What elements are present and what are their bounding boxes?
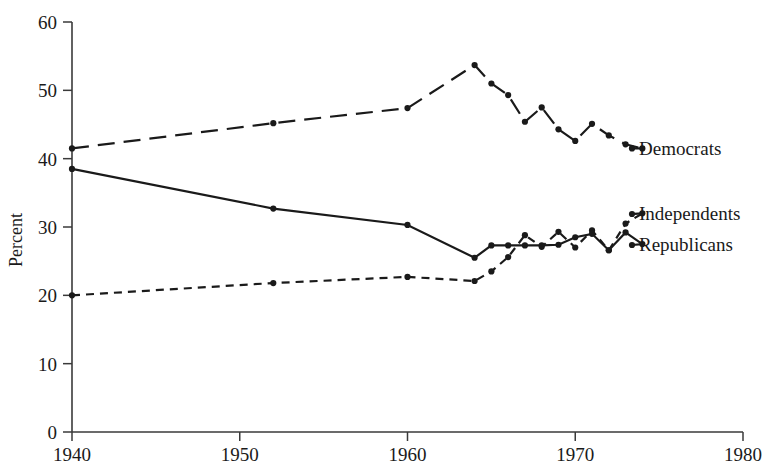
series-leader-dot-republicans bbox=[629, 242, 635, 248]
data-point-republicans-1965 bbox=[488, 242, 494, 248]
y-tick-label-60: 60 bbox=[38, 12, 57, 33]
data-point-democrats-1970 bbox=[572, 138, 578, 144]
data-point-democrats-1973 bbox=[622, 141, 628, 147]
y-axis-ticks bbox=[63, 22, 72, 432]
series-line-democrats bbox=[72, 65, 642, 148]
data-point-republicans-1960 bbox=[404, 222, 410, 228]
y-tick-label-40: 40 bbox=[38, 149, 57, 170]
y-axis-title: Percent bbox=[6, 213, 26, 267]
chart-container: 0102030405060 19401950196019701980 Perce… bbox=[0, 0, 778, 470]
y-tick-label-50: 50 bbox=[38, 80, 57, 101]
data-point-democrats-1968 bbox=[539, 104, 545, 110]
x-tick-label-1940: 1940 bbox=[53, 444, 91, 465]
data-point-republicans-1940 bbox=[69, 166, 75, 172]
series-layer bbox=[72, 65, 642, 295]
y-axis-tick-labels: 0102030405060 bbox=[38, 12, 57, 443]
x-tick-label-1970: 1970 bbox=[556, 444, 594, 465]
data-point-independents-1970 bbox=[572, 244, 578, 250]
series-leader-dot-independents bbox=[629, 211, 635, 217]
x-tick-label-1960: 1960 bbox=[389, 444, 427, 465]
data-point-democrats-1960 bbox=[404, 105, 410, 111]
series-label-democrats: Democrats bbox=[639, 138, 721, 159]
x-tick-label-1980: 1980 bbox=[724, 444, 762, 465]
data-point-independents-1960 bbox=[404, 274, 410, 280]
data-point-independents-1969 bbox=[555, 229, 561, 235]
data-point-republicans-1967 bbox=[522, 242, 528, 248]
series-label-independents: Independents bbox=[639, 203, 740, 224]
y-tick-label-20: 20 bbox=[38, 285, 57, 306]
line-chart: 0102030405060 19401950196019701980 Perce… bbox=[0, 0, 778, 470]
data-point-independents-1966 bbox=[505, 254, 511, 260]
data-point-democrats-1972 bbox=[606, 132, 612, 138]
series-end-labels: Democrats Independents Republicans bbox=[639, 138, 740, 255]
x-tick-label-1950: 1950 bbox=[221, 444, 259, 465]
data-point-democrats-1971 bbox=[589, 121, 595, 127]
marker-layer bbox=[69, 62, 646, 298]
data-point-republicans-1970 bbox=[572, 234, 578, 240]
data-point-republicans-1971 bbox=[589, 231, 595, 237]
x-axis-tick-labels: 19401950196019701980 bbox=[53, 444, 762, 465]
data-point-republicans-1969 bbox=[555, 242, 561, 248]
data-point-democrats-1965 bbox=[488, 80, 494, 86]
data-point-democrats-1964 bbox=[472, 62, 478, 68]
y-tick-label-30: 30 bbox=[38, 217, 57, 238]
data-point-republicans-1972 bbox=[606, 247, 612, 253]
y-axis: 0102030405060 bbox=[38, 12, 72, 443]
data-point-democrats-1966 bbox=[505, 92, 511, 98]
data-point-independents-1965 bbox=[488, 268, 494, 274]
series-line-independents bbox=[72, 213, 642, 295]
data-point-republicans-1966 bbox=[505, 242, 511, 248]
x-axis-ticks bbox=[72, 432, 743, 441]
data-point-republicans-1968 bbox=[539, 242, 545, 248]
y-tick-label-10: 10 bbox=[38, 354, 57, 375]
series-leader-dot-democrats bbox=[629, 145, 635, 151]
data-point-republicans-1964 bbox=[472, 255, 478, 261]
data-point-republicans-1952 bbox=[270, 205, 276, 211]
data-point-democrats-1969 bbox=[555, 126, 561, 132]
data-point-independents-1940 bbox=[69, 292, 75, 298]
data-point-democrats-1940 bbox=[69, 145, 75, 151]
x-axis: 19401950196019701980 bbox=[53, 432, 762, 465]
data-point-republicans-1973 bbox=[622, 229, 628, 235]
series-label-republicans: Republicans bbox=[639, 234, 733, 255]
y-tick-label-0: 0 bbox=[48, 422, 58, 443]
data-point-democrats-1952 bbox=[270, 120, 276, 126]
data-point-independents-1952 bbox=[270, 280, 276, 286]
data-point-independents-1967 bbox=[522, 232, 528, 238]
data-point-democrats-1967 bbox=[522, 119, 528, 125]
data-point-independents-1964 bbox=[472, 278, 478, 284]
data-point-independents-1973 bbox=[622, 220, 628, 226]
